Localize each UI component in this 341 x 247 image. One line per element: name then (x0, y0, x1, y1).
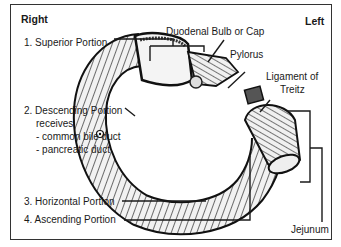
label-horizontal-portion: 3. Horizontal Portion (24, 196, 115, 208)
label-receives: receives (36, 118, 73, 130)
label-common-bile-duct: - common bile duct (36, 131, 120, 143)
label-jejunum: Jejunum (291, 224, 329, 236)
label-descending-portion: 2. Descending Portion (24, 105, 122, 117)
label-pylorus: Pylorus (230, 49, 263, 61)
label-ligament-of-treitz-line1: Ligament of (266, 71, 318, 83)
duodenum-tube (90, 33, 302, 218)
orientation-left-label: Left (305, 15, 324, 27)
label-pancreatic-duct: - pancreatic duct (36, 144, 110, 156)
orientation-right-label: Right (21, 13, 48, 25)
label-superior-portion: 1. Superior Portion (24, 37, 107, 49)
label-duodenal-bulb: Duodenal Bulb or Cap (166, 26, 264, 38)
label-ligament-of-treitz-line2: Treitz (280, 84, 305, 96)
label-ascending-portion: 4. Ascending Portion (24, 214, 116, 226)
